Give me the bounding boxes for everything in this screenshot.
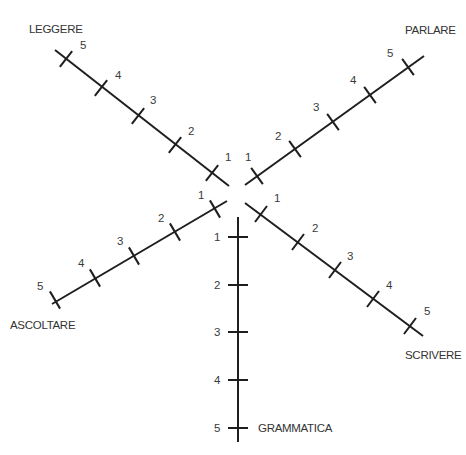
leggere-tick-1 (206, 165, 218, 181)
leggere-tick-label-5: 5 (80, 39, 86, 51)
parlare-tick-label-4: 4 (350, 74, 357, 86)
ascoltare-tick-3 (129, 247, 139, 264)
leggere-axis-line (55, 50, 229, 186)
parlare-axis-line (245, 56, 424, 185)
ascoltare-axis-line (52, 201, 227, 304)
parlare-tick-label-2: 2 (275, 130, 281, 142)
grammatica-tick-label-1: 1 (214, 231, 220, 243)
leggere-tick-label-3: 3 (150, 94, 156, 106)
scrivere-tick-1 (255, 206, 267, 222)
ascoltare-tick-label-4: 4 (78, 257, 85, 269)
axis-scrivere: 12345SCRIVERE (245, 192, 462, 361)
parlare-axis-title: PARLARE (405, 24, 456, 36)
leggere-tick-label-1: 1 (225, 151, 231, 163)
grammatica-tick-label-5: 5 (214, 422, 220, 434)
ascoltare-tick-label-2: 2 (158, 212, 164, 224)
grammatica-tick-label-4: 4 (214, 374, 221, 386)
scrivere-axis-line (245, 203, 423, 336)
grammatica-tick-label-3: 3 (214, 326, 220, 338)
axis-grammatica: 12345GRAMMATICA (214, 217, 333, 442)
parlare-tick-3 (327, 114, 339, 130)
scrivere-tick-5 (404, 318, 416, 334)
parlare-tick-1 (251, 168, 263, 184)
scrivere-tick-label-3: 3 (347, 250, 353, 262)
ascoltare-axis-title: ASCOLTARE (10, 319, 76, 331)
grammatica-tick-label-2: 2 (214, 279, 220, 291)
parlare-tick-5 (402, 59, 414, 75)
scrivere-tick-label-2: 2 (312, 222, 318, 234)
ascoltare-tick-label-3: 3 (117, 235, 123, 247)
parlare-tick-label-5: 5 (387, 47, 393, 59)
axis-ascoltare: 12345ASCOLTARE (10, 189, 227, 331)
scrivere-tick-4 (367, 291, 379, 307)
scrivere-tick-label-5: 5 (424, 305, 430, 317)
parlare-tick-label-1: 1 (245, 151, 251, 163)
grammatica-axis-title: GRAMMATICA (258, 422, 333, 434)
scrivere-tick-2 (292, 234, 304, 250)
ascoltare-tick-label-1: 1 (198, 189, 204, 201)
parlare-tick-4 (364, 87, 376, 103)
leggere-tick-5 (60, 51, 72, 67)
ascoltare-tick-label-5: 5 (37, 280, 43, 292)
ascoltare-tick-2 (170, 223, 180, 240)
leggere-axis-title: LEGGERE (29, 23, 83, 35)
ascoltare-tick-4 (90, 269, 100, 286)
axis-leggere: 12345LEGGERE (29, 23, 231, 186)
scrivere-tick-3 (329, 262, 341, 278)
leggere-tick-label-2: 2 (188, 125, 194, 137)
parlare-tick-label-3: 3 (313, 101, 319, 113)
leggere-tick-label-4: 4 (115, 69, 122, 81)
axis-parlare: 12345PARLARE (245, 24, 456, 185)
parlare-tick-2 (289, 141, 301, 157)
scrivere-axis-title: SCRIVERE (405, 349, 462, 361)
skill-radial-diagram: 12345LEGGERE12345PARLARE12345ASCOLTARE12… (0, 0, 466, 455)
scrivere-tick-label-4: 4 (386, 279, 393, 291)
scrivere-tick-label-1: 1 (274, 192, 280, 204)
axes-layer: 12345LEGGERE12345PARLARE12345ASCOLTARE12… (10, 23, 462, 442)
